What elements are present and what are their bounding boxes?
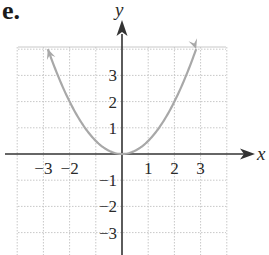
x-tick-label: 3 <box>196 159 205 178</box>
y-tick-label: 3 <box>109 66 118 85</box>
y-axis-label: y <box>113 0 124 20</box>
x-tick-label: −2 <box>61 159 79 178</box>
y-tick-label: 2 <box>109 93 118 112</box>
x-tick-label: −3 <box>34 159 52 178</box>
x-axis-label: x <box>256 143 266 164</box>
x-tick-label: 1 <box>144 159 153 178</box>
y-tick-label: −1 <box>99 171 117 190</box>
y-tick-label: 1 <box>109 119 118 138</box>
axes <box>5 20 255 255</box>
parabola-graph: −3−2123321−1−2−3 x y <box>0 0 269 255</box>
x-tick-label: 2 <box>170 159 179 178</box>
y-tick-label: −3 <box>99 224 117 243</box>
y-tick-label: −2 <box>99 197 117 216</box>
